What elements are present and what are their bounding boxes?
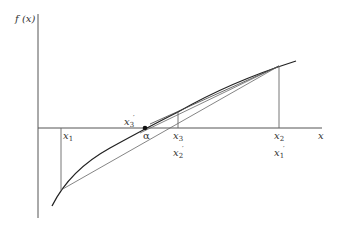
root-label: α	[143, 131, 150, 141]
label-x1p-sub: 1	[280, 152, 284, 160]
label-x3-sub: 3	[179, 135, 183, 143]
label-x2p-sub: 2	[179, 152, 183, 160]
label-x2: x2	[274, 131, 284, 143]
label-x1-prime: x1′	[274, 146, 285, 160]
prime-mark: ′	[283, 145, 285, 153]
prime-mark: ′	[133, 114, 135, 122]
secant-x3p-x2	[150, 66, 279, 124]
label-x1-sub: 1	[69, 135, 73, 143]
secant-diagram	[0, 0, 339, 228]
label-x3p-sub: 3	[130, 121, 134, 129]
x-axis-label: x	[318, 131, 324, 141]
label-x1: x1	[63, 131, 73, 143]
label-x3: x3	[173, 131, 183, 143]
secant-x3-x2	[140, 66, 279, 133]
prime-mark: ′	[182, 145, 184, 153]
label-x3-prime: x3′	[124, 115, 135, 129]
y-axis-label: f (x)	[15, 14, 35, 24]
label-x2-prime: x2′	[173, 146, 184, 160]
label-x2-sub: 2	[280, 135, 284, 143]
